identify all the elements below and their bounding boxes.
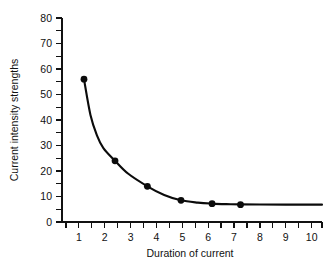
y-tick-label: 10 [40,190,52,202]
data-point [237,201,244,208]
data-point [81,76,88,83]
data-point [209,200,216,207]
x-tick-label: 8 [257,231,263,243]
y-tick-label: 70 [40,37,52,49]
x-axis-title: Duration of current [147,247,234,259]
data-point [144,183,151,190]
x-tick-label: 1 [76,231,82,243]
chart-container: 01020304050607080 12345678910 Current in… [0,0,336,266]
y-tick-label: 50 [40,88,52,100]
y-tick-label: 30 [40,139,52,151]
current-intensity-vs-duration-chart: 01020304050607080 12345678910 Current in… [0,0,336,266]
x-tick-label: 6 [205,231,211,243]
y-tick-label: 60 [40,63,52,75]
x-tick-label: 10 [306,231,318,243]
y-tick-label: 40 [40,114,52,126]
y-tick-label: 20 [40,165,52,177]
x-tick-label: 3 [128,231,134,243]
y-axis-title: Current intensity strengths [8,59,20,182]
x-tick-label: 7 [231,231,237,243]
y-tick-label: 80 [40,12,52,24]
x-tick-label: 4 [154,231,160,243]
data-point [112,157,119,164]
x-tick-label: 5 [179,231,185,243]
y-tick-label: 0 [46,216,52,228]
x-tick-label: 2 [102,231,108,243]
x-tick-label: 9 [283,231,289,243]
data-point [178,197,185,204]
